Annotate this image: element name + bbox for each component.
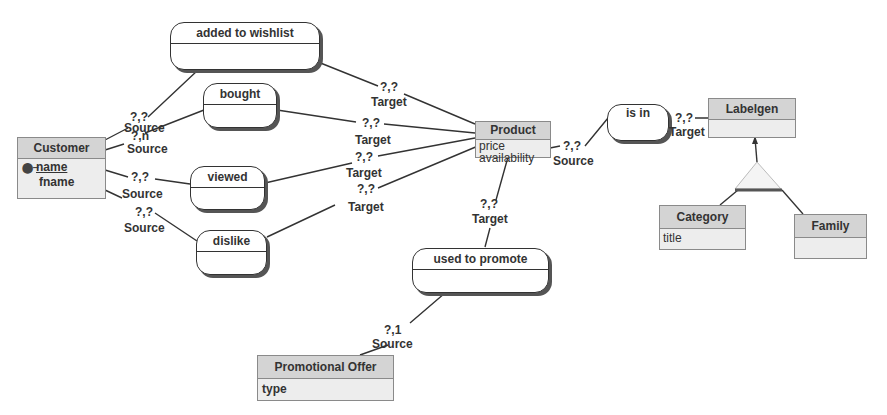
role-bought-source: Source <box>127 143 168 155</box>
cardinality-bought-target: ?,? <box>362 117 380 129</box>
cardinality-is-in-target: ?,? <box>675 112 693 124</box>
relationship-is-in[interactable]: is in <box>607 104 669 141</box>
cardinality-dislike-target: ?,? <box>357 183 375 195</box>
connector-lines <box>0 0 887 415</box>
relationship-added-to-wishlist[interactable]: added to wishlist <box>170 22 320 70</box>
role-viewed-source: Source <box>122 188 163 200</box>
cardinality-promote-source: ?,1 <box>384 324 401 336</box>
relationship-bought-label: bought <box>204 84 276 105</box>
role-dislike-source: Source <box>124 222 165 234</box>
entity-promotional-offer-title: Promotional Offer <box>258 356 393 379</box>
relationship-is-in-label: is in <box>608 105 668 118</box>
role-promote-source: Source <box>372 338 413 350</box>
generalization-triangle-icon <box>735 162 781 189</box>
cardinality-dislike-source: ?,? <box>135 206 153 218</box>
primary-key-icon: ⬤‒ <box>22 161 33 175</box>
cardinality-viewed-target: ?,? <box>355 151 373 163</box>
relationship-viewed-label: viewed <box>191 167 264 188</box>
role-is-in-target: Target <box>669 126 705 138</box>
relationship-used-to-promote[interactable]: used to promote <box>412 248 549 293</box>
role-viewed-target: Target <box>346 167 382 179</box>
cardinality-bought-source: ?,n <box>131 130 149 142</box>
relationship-used-to-promote-label: used to promote <box>413 249 548 270</box>
entity-category-title: Category <box>660 206 745 229</box>
attribute-availability: availability <box>479 152 547 164</box>
role-bought-target: Target <box>355 134 391 146</box>
attribute-type: type <box>262 382 389 396</box>
entity-labelgen-title: Labelgen <box>709 99 795 120</box>
role-is-in-source: Source <box>553 155 594 167</box>
entity-family[interactable]: Family <box>794 214 867 259</box>
attribute-title: title <box>663 231 742 245</box>
cardinality-viewed-source: ?,? <box>131 171 149 183</box>
entity-product-title: Product <box>476 122 550 140</box>
er-diagram-canvas: Customer ⬤‒name fname Product price avai… <box>0 0 887 415</box>
attribute-fname: fname <box>22 175 101 189</box>
relationship-bought[interactable]: bought <box>203 83 277 128</box>
attribute-name-row: ⬤‒name <box>22 160 101 175</box>
relationship-viewed[interactable]: viewed <box>190 166 265 210</box>
entity-promotional-offer[interactable]: Promotional Offer type <box>257 355 394 401</box>
role-promote-target: Target <box>472 213 508 225</box>
entity-product[interactable]: Product price availability <box>475 121 551 158</box>
relationship-dislike[interactable]: dislike <box>196 230 267 275</box>
entity-family-title: Family <box>795 215 866 238</box>
cardinality-promote-target: ?,? <box>480 198 498 210</box>
attribute-name: name <box>36 160 67 174</box>
entity-customer[interactable]: Customer ⬤‒name fname <box>17 137 106 199</box>
cardinality-is-in-source: ?,? <box>563 140 581 152</box>
entity-labelgen[interactable]: Labelgen <box>708 98 796 138</box>
role-dislike-target: Target <box>348 201 384 213</box>
entity-category[interactable]: Category title <box>659 205 746 250</box>
entity-customer-title: Customer <box>18 138 105 159</box>
relationship-dislike-label: dislike <box>197 231 266 252</box>
cardinality-wishlist-target: ?,? <box>380 81 398 93</box>
relationship-added-to-wishlist-label: added to wishlist <box>171 23 319 44</box>
role-wishlist-target: Target <box>371 96 407 108</box>
